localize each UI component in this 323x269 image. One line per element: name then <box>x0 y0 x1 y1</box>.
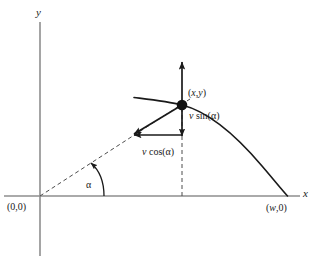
landing-label-text: (w,0) <box>266 202 287 213</box>
landing-point-label: (w,0) <box>266 203 287 213</box>
projectile-diagram: y x (0,0) (w,0) (x,y) v sin(α) v cos(α) … <box>0 0 323 269</box>
vsin-label-text: v sin(α) <box>189 110 220 121</box>
velocity-vector-arrow <box>134 105 182 134</box>
origin-label: (0,0) <box>7 202 26 212</box>
angle-arc <box>91 163 104 196</box>
diagram-canvas <box>0 0 323 269</box>
vcos-label-text: v cos(α) <box>142 146 174 157</box>
y-axis-label: y <box>36 7 41 18</box>
horizontal-component-label: v cos(α) <box>142 147 174 157</box>
current-point-label: (x,y) <box>188 88 206 98</box>
x-axis-label: x <box>303 188 308 199</box>
angle-label: α <box>86 180 91 190</box>
vertical-component-label: v sin(α) <box>189 111 220 121</box>
point-label-text: (x,y) <box>188 87 206 98</box>
point-marker <box>177 100 188 111</box>
